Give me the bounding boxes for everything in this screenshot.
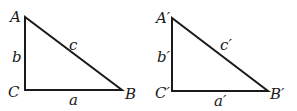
side-b-label: b [12, 48, 22, 66]
vertex-c-prime-label: C′ [155, 84, 170, 102]
side-c-label: c [69, 36, 78, 54]
triangle-abc: A C B b c a [8, 8, 136, 109]
vertex-a-label: A [8, 8, 21, 26]
vertex-b-label: B [124, 85, 136, 103]
vertex-b-prime-label: B′ [269, 85, 285, 103]
side-a-prime-label: a′ [214, 92, 227, 110]
vertex-c-label: C [8, 83, 20, 101]
side-c-prime-label: c′ [220, 36, 232, 54]
triangle-abc-prime-outline [172, 18, 268, 91]
side-b-prime-label: b′ [157, 48, 171, 66]
similar-triangles-diagram: A C B b c a A′ C′ B′ b′ c′ a′ [0, 0, 297, 111]
triangle-abc-prime: A′ C′ B′ b′ c′ a′ [154, 9, 285, 110]
side-a-label: a [69, 91, 78, 109]
vertex-a-prime-label: A′ [154, 9, 171, 27]
